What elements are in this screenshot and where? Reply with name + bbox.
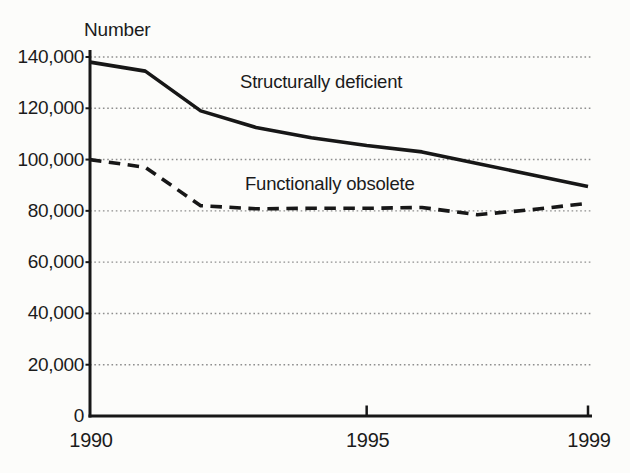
y-axis-label-20000: 20,000 bbox=[0, 354, 84, 376]
y-axis-label-80000: 80,000 bbox=[0, 200, 84, 222]
y-axis-label-120000: 120,000 bbox=[0, 97, 84, 119]
bridge-condition-line-chart: Number 140,000120,000100,00080,00060,000… bbox=[0, 0, 630, 473]
y-axis-label-100000: 100,000 bbox=[0, 149, 84, 171]
y-axis-label-60000: 60,000 bbox=[0, 251, 84, 273]
x-axis-label-1990: 1990 bbox=[51, 429, 131, 451]
x-axis-label-1995: 1995 bbox=[328, 429, 408, 451]
x-axis-label-1999: 1999 bbox=[549, 429, 629, 451]
y-axis-label-40000: 40,000 bbox=[0, 302, 84, 324]
y-axis-label-140000: 140,000 bbox=[0, 46, 84, 68]
series-label-structurally-deficient: Structurally deficient bbox=[240, 71, 402, 93]
y-axis-title: Number bbox=[84, 19, 150, 41]
y-axis-label-0: 0 bbox=[0, 405, 84, 427]
series-label-functionally-obsolete: Functionally obsolete bbox=[245, 173, 415, 195]
